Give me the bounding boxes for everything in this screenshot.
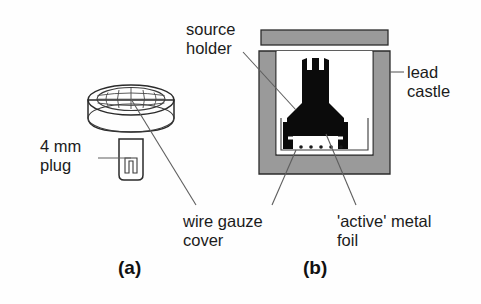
figure-container: source holder lead castle 4 mm plug wire… — [0, 0, 481, 304]
wire-gauze-cover-shape — [88, 85, 174, 132]
lead-castle-top-slab — [261, 30, 388, 45]
label-lead-castle-line1: lead — [407, 63, 438, 81]
label-active-foil-line2: foil — [337, 231, 358, 249]
label-plug-line2: plug — [40, 156, 71, 174]
panel-a-group — [88, 85, 196, 205]
panel-label-a: (a) — [118, 257, 141, 278]
label-plug-line1: 4 mm — [40, 137, 81, 155]
label-lead-castle-line2: castle — [407, 82, 450, 100]
label-source-holder-line2: holder — [186, 39, 232, 57]
label-source-holder-line1: source — [186, 20, 236, 38]
label-wire-gauze-line1: wire gauze — [182, 212, 263, 230]
panel-label-b: (b) — [303, 257, 327, 278]
wire-gauze-leader-line — [131, 99, 196, 205]
label-wire-gauze-line2: cover — [183, 231, 224, 249]
diagram-svg: source holder lead castle 4 mm plug wire… — [0, 0, 481, 304]
4mm-plug-shape — [119, 139, 143, 180]
label-active-foil-line1: 'active' metal — [337, 212, 431, 230]
panel-b-group — [243, 30, 404, 205]
holder-foil-gap — [288, 137, 343, 140]
